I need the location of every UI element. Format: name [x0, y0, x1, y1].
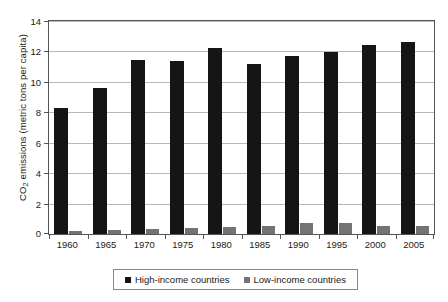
y-axis-label: 10	[30, 76, 41, 87]
y-axis-tick	[44, 173, 49, 174]
y-axis-label: 6	[36, 137, 41, 148]
x-axis-tick	[319, 234, 320, 239]
y-gridline	[49, 173, 434, 174]
y-axis-tick	[44, 112, 49, 113]
legend-label-low-income: Low-income countries	[254, 274, 346, 285]
bar-high-income	[285, 56, 299, 234]
x-axis-tick	[242, 234, 243, 239]
x-axis-tick	[203, 234, 204, 239]
y-axis-tick	[44, 143, 49, 144]
legend-swatch-low-income	[244, 277, 250, 283]
bar-low-income	[223, 227, 236, 234]
x-axis-label: 1995	[326, 239, 347, 250]
x-axis-tick	[165, 234, 166, 239]
y-axis-tick	[44, 204, 49, 205]
bar-high-income	[54, 108, 68, 234]
x-axis-tick	[126, 234, 127, 239]
y-axis-title: CO2 emissions (metric tons per capita)	[17, 3, 28, 233]
y-gridline	[49, 112, 434, 113]
x-axis-tick	[49, 234, 50, 239]
x-axis-tick	[280, 234, 281, 239]
y-axis-tick	[44, 51, 49, 52]
y-axis-label: 0	[36, 228, 41, 239]
bar-high-income	[170, 61, 184, 234]
y-gridline	[49, 51, 434, 52]
x-axis-label: 1965	[95, 239, 116, 250]
bar-low-income	[416, 226, 429, 234]
y-axis-label: 14	[30, 16, 41, 27]
y-axis-label: 2	[36, 198, 41, 209]
y-axis-label: 8	[36, 107, 41, 118]
bar-high-income	[208, 48, 222, 234]
x-axis-label: 2000	[365, 239, 386, 250]
bar-low-income	[377, 226, 390, 234]
bar-high-income	[401, 42, 415, 234]
x-axis-label: 1985	[249, 239, 270, 250]
y-axis-title-post: emissions (metric tons per capita)	[17, 34, 28, 182]
bar-high-income	[93, 88, 107, 234]
x-axis-label: 1990	[288, 239, 309, 250]
x-axis-label: 1980	[211, 239, 232, 250]
bar-high-income	[324, 52, 338, 234]
y-axis-tick	[44, 21, 49, 22]
x-axis-tick	[88, 234, 89, 239]
bar-low-income	[69, 231, 82, 234]
bar-low-income	[108, 230, 121, 234]
co2-emissions-bar-chart: CO2 emissions (metric tons per capita) 0…	[0, 0, 448, 302]
bar-high-income	[247, 64, 261, 234]
y-axis-title-pre: CO	[17, 187, 28, 201]
bar-high-income	[131, 60, 145, 234]
y-gridline	[49, 143, 434, 144]
bar-low-income	[300, 223, 313, 234]
bar-low-income	[339, 223, 352, 234]
y-gridline	[49, 21, 434, 22]
y-axis-title-subscript: 2	[21, 182, 30, 186]
bar-low-income	[146, 229, 159, 234]
legend-label-high-income: High-income countries	[135, 274, 230, 285]
x-axis-tick	[396, 234, 397, 239]
y-gridline	[49, 82, 434, 83]
x-axis-label: 1975	[172, 239, 193, 250]
x-axis-tick	[357, 234, 358, 239]
plot-area: 02468101214	[48, 20, 435, 235]
bar-low-income	[185, 228, 198, 234]
x-axis-label: 2005	[403, 239, 424, 250]
x-axis-label: 1960	[57, 239, 78, 250]
y-gridline	[49, 204, 434, 205]
x-axis-tick	[433, 234, 434, 239]
y-axis-label: 4	[36, 168, 41, 179]
bar-low-income	[262, 226, 275, 234]
y-axis-tick	[44, 82, 49, 83]
bar-high-income	[362, 45, 376, 234]
legend-item-low-income: Low-income countries	[244, 274, 346, 285]
legend-swatch-high-income	[125, 277, 131, 283]
x-axis-label: 1970	[134, 239, 155, 250]
chart-legend: High-income countries Low-income countri…	[113, 269, 358, 290]
legend-item-high-income: High-income countries	[125, 274, 230, 285]
y-axis-label: 12	[30, 46, 41, 57]
